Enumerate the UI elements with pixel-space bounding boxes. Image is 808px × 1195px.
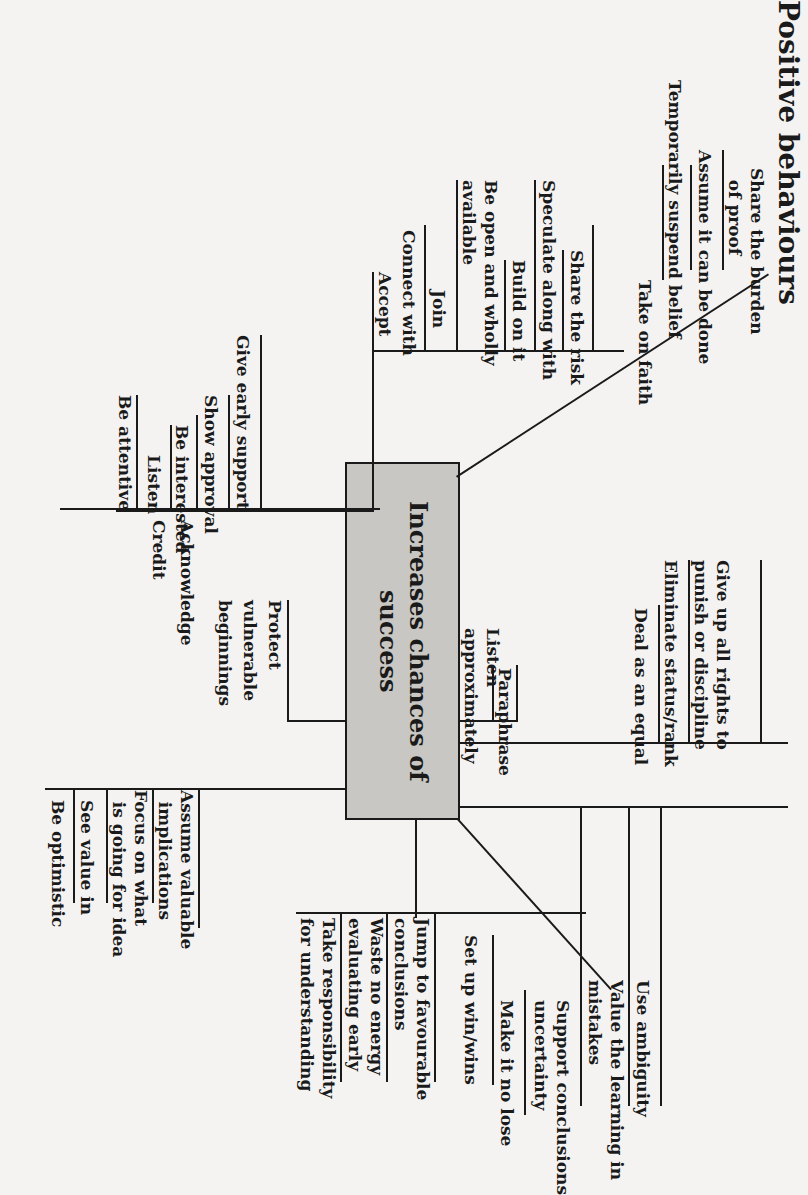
accept-item: Join [428, 290, 450, 328]
protect-label: Protect vulnerable beginnings [212, 600, 287, 706]
equal-item: Eliminate status/rank [660, 560, 682, 767]
uncertainty-item: Value the learning in mistakes [584, 980, 628, 1180]
accept-label: Accept [374, 272, 396, 336]
uncertainty-branch-line [458, 806, 788, 808]
central-node: Increases chances of success [345, 462, 460, 820]
credit-item: Give early support [232, 335, 254, 509]
optimistic-item: See value in [76, 800, 98, 915]
optimistic-item: Assume valuable implications [154, 790, 198, 949]
listen-approx-item: Paraphrase [494, 668, 516, 776]
acknowledge-label: Acknowledge [176, 520, 198, 646]
credit-label: Credit [148, 520, 170, 580]
optimistic-item: Focus on what is going for idea [108, 790, 152, 957]
faith-item: Assume it can be done [694, 150, 716, 364]
diagram-title: Positive behaviours [772, 0, 805, 305]
optimistic-item: Be optimistic [47, 800, 69, 927]
equal-item: Deal as an equal [630, 608, 652, 765]
accept-item: Connect with [398, 230, 420, 356]
accept-item: Build on it [508, 260, 530, 361]
acknowledge-item: Be attentive [114, 395, 136, 511]
acknowledge-item: Listen [143, 455, 165, 514]
responsibility-branch-line [415, 818, 417, 918]
equal-branch-line [458, 742, 788, 744]
equal-item: Give up all rights to punish or discipli… [690, 560, 734, 750]
win-item: Set up win/wins [460, 935, 482, 1085]
win-item: Make it no lose [496, 1000, 518, 1146]
faith-item: Share the burden of proof [724, 168, 768, 335]
responsibility-item: Waste no energy evaluating early [344, 918, 388, 1075]
faith-item: Temporarily suspend belief [664, 80, 686, 339]
accept-item: Share the risk [566, 250, 588, 385]
protect-branch-line [287, 720, 345, 722]
responsibility-item: Jump to favourable conclusions [390, 918, 434, 1100]
uncertainty-item: Use ambiguity [632, 980, 654, 1117]
uncertainty-item: Support conclusions uncertainty [530, 1000, 574, 1195]
responsibility-item: Take responsibility for understanding [296, 918, 340, 1099]
accept-item: Be open and wholly available [458, 180, 502, 366]
faith-branch-line [456, 273, 769, 477]
credit-item: Show approval [200, 395, 222, 534]
accept-item: Speculate along with [538, 180, 560, 380]
faith-item: Take on faith [634, 280, 656, 405]
